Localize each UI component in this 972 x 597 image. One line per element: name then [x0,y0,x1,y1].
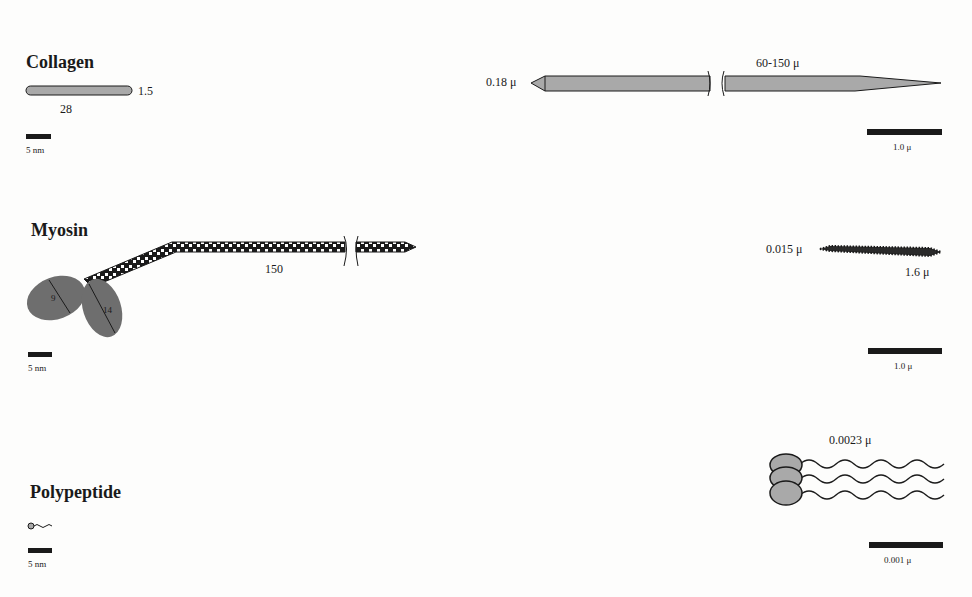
collagen-length-label: 28 [60,102,72,117]
myosin-filament-scale-bar [868,348,942,354]
collagen-title: Collagen [26,52,94,73]
myosin-scale-label: 5 nm [28,363,46,373]
myosin-filament-length-label: 1.6 μ [905,265,929,280]
polypeptide-assembly-length-label: 0.0023 μ [829,433,871,448]
collagen-fibril-length-label: 60-150 μ [756,56,799,71]
polypeptide-scale-bar [28,548,52,553]
polypeptide-assembly-scale-bar [869,542,943,548]
polypeptide-assembly-shape [770,454,944,505]
polypeptide-molecule-shape [28,523,52,529]
collagen-width-label: 1.5 [138,84,153,99]
myosin-filament-shape [820,246,941,256]
collagen-scale-bar [26,134,51,139]
collagen-fibril-shape [531,71,941,96]
myosin-head2-label: 14 [103,305,112,315]
collagen-fibril-scale-label: 1.0 μ [893,142,911,152]
polypeptide-scale-label: 5 nm [28,559,46,569]
myosin-filament-width-label: 0.015 μ [766,242,802,257]
myosin-head1-label: 9 [51,293,56,303]
myosin-tail-label: 150 [265,262,283,277]
collagen-fibril-width-label: 0.18 μ [486,75,516,90]
polypeptide-assembly-scale-label: 0.001 μ [884,555,911,565]
myosin-filament-scale-label: 1.0 μ [894,361,912,371]
collagen-scale-label: 5 nm [26,145,44,155]
polypeptide-title: Polypeptide [30,482,121,503]
myosin-molecule-shape [21,236,416,342]
myosin-title: Myosin [31,220,88,241]
collagen-molecule-shape [26,86,132,95]
collagen-fibril-scale-bar [867,129,942,135]
myosin-scale-bar [28,352,52,357]
